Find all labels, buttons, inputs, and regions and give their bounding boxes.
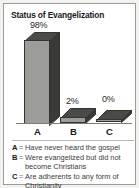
- legend-key-a: A: [12, 143, 17, 152]
- chart-frame: Status of Evangelization: [3, 3, 136, 185]
- legend-equals-b: =: [19, 153, 23, 162]
- bar-c-front-face: [96, 119, 122, 122]
- x-tick-label-b: B: [70, 126, 77, 137]
- bar-a-side-face: [49, 32, 60, 126]
- x-tick-label-a: A: [34, 126, 41, 137]
- x-axis-tick-labels: A B C: [4, 126, 137, 139]
- x-axis-baseline: [16, 123, 132, 124]
- bar-a-front-face: [24, 40, 50, 124]
- chart-title: Status of Evangelization: [11, 10, 104, 20]
- bar-b-value-label: 2%: [66, 96, 79, 106]
- plot-area: 98% 2% 0%: [4, 20, 137, 124]
- legend-item-b: B = Were evangelized but did not become …: [12, 153, 136, 172]
- legend-equals-c: =: [19, 172, 23, 181]
- legend-description-c: Are adherents to any form of Christianit…: [25, 172, 136, 188]
- legend-equals-a: =: [19, 143, 23, 152]
- legend-key-c: C: [12, 172, 17, 181]
- legend-key-b: B: [12, 153, 17, 162]
- bar-b-side-face: [85, 108, 96, 124]
- legend-divider: [12, 140, 134, 141]
- x-tick-label-c: C: [106, 126, 113, 137]
- legend-item-c: C = Are adherents to any form of Christi…: [12, 172, 136, 188]
- bar-c-value-label: 0%: [102, 94, 115, 104]
- bar-a-value-label: 98%: [30, 20, 47, 30]
- bar-a[interactable]: [24, 32, 60, 124]
- chart-figure: Status of Evangelization: [0, 0, 139, 188]
- bar-c-side-face: [121, 110, 132, 123]
- legend-item-a: A = Have never heard the gospel: [12, 143, 136, 152]
- legend-description-b: Were evangelized but did not become Chri…: [25, 153, 136, 172]
- chart-legend: A = Have never heard the gospel B = Were…: [12, 143, 136, 188]
- legend-description-a: Have never heard the gospel: [25, 143, 136, 152]
